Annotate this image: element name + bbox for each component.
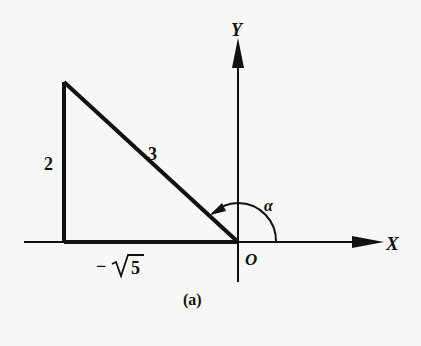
minus-sign: − [96, 256, 106, 276]
vertical-side-label: 2 [44, 154, 53, 174]
angle-label: α [264, 197, 274, 214]
radicand: 5 [131, 258, 140, 278]
x-axis-arrow-icon [352, 236, 384, 248]
origin-label: O [245, 250, 257, 269]
hypotenuse-label: 3 [148, 144, 157, 164]
y-axis-arrow-icon [232, 38, 244, 68]
horizontal-side-label: − 5 [96, 255, 144, 278]
diagram-canvas: Y X O 2 3 α − 5 (a) [0, 0, 421, 346]
y-axis-label: Y [231, 20, 244, 40]
y-axis [232, 38, 244, 282]
x-axis-label: X [385, 233, 400, 254]
figure-caption: (a) [183, 291, 202, 309]
angle-arrow-icon [210, 203, 226, 215]
